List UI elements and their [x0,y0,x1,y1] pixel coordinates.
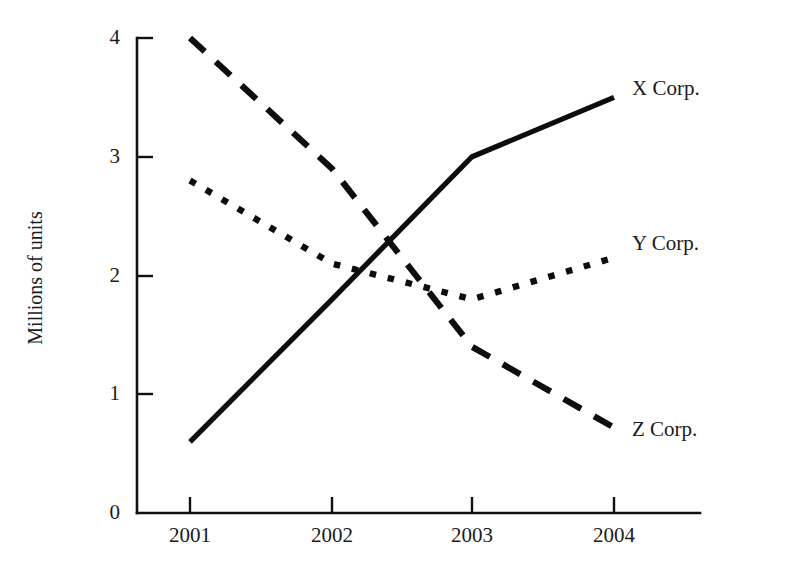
chart-page: 4 3 2 1 0 2001 2002 2003 2004 Millions o… [0,0,790,575]
y-tick-label-3: 3 [110,144,121,168]
x-tick-label-2003: 2003 [451,523,493,547]
series-line-y-corp [190,181,614,300]
series-line-z-corp [190,38,614,428]
x-tick-label-2004: 2004 [593,523,636,547]
y-tick-label-0: 0 [110,500,121,524]
line-chart: 4 3 2 1 0 2001 2002 2003 2004 Millions o… [0,0,790,575]
y-tick-label-2: 2 [110,263,121,287]
x-tick-labels: 2001 2002 2003 2004 [169,523,636,547]
series-labels: X Corp. Y Corp. Z Corp. [632,76,700,441]
y-axis-title: Millions of units [24,211,46,345]
x-tick-label-2002: 2002 [311,523,353,547]
series-label-y-corp: Y Corp. [632,231,699,255]
series-group [190,38,614,442]
y-tick-label-4: 4 [110,25,121,49]
y-tick-labels: 4 3 2 1 0 [110,25,121,524]
series-label-x-corp: X Corp. [632,76,700,100]
x-tick-label-2001: 2001 [169,523,211,547]
y-tick-label-1: 1 [110,381,121,405]
series-label-z-corp: Z Corp. [632,417,697,441]
